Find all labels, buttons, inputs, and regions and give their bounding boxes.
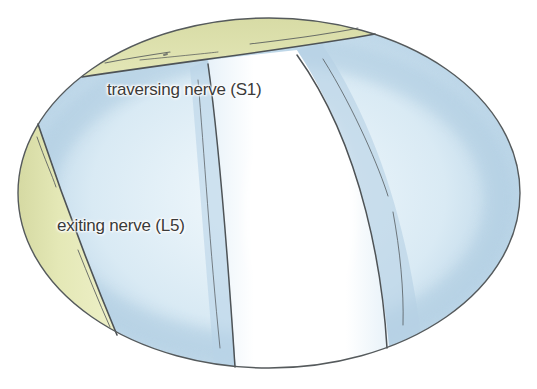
endoscopic-illustration [0,0,537,389]
exiting-nerve-label: exiting nerve (L5) [57,216,185,236]
traversing-nerve-label: traversing nerve (S1) [107,80,262,100]
endoscopic-view-figure: traversing nerve (S1) exiting nerve (L5) [0,0,537,389]
